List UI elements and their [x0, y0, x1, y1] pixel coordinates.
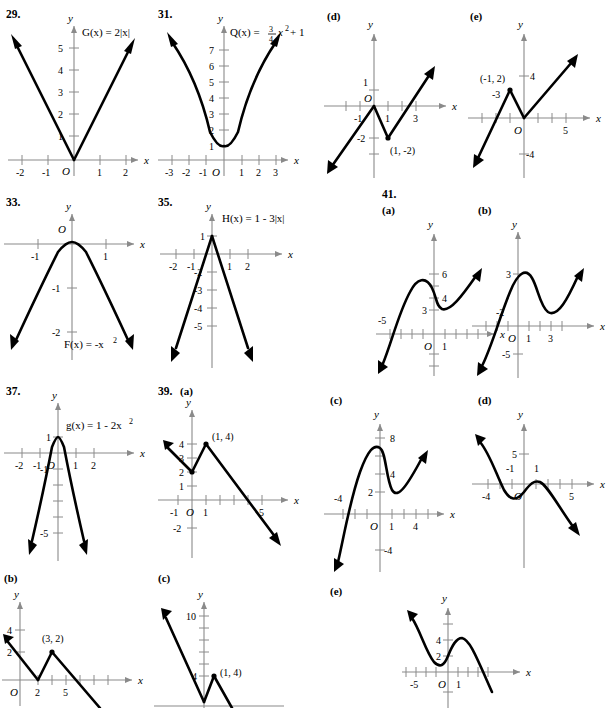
- graph-41c: y x O -4 1 4 2 4 8 -4: [318, 396, 473, 576]
- y-tick-6: 6: [209, 61, 214, 72]
- x-tick--4: -4: [482, 491, 490, 502]
- y-tick--4: -4: [526, 149, 534, 160]
- graph-41e: y x O -5 1 2 4: [400, 580, 580, 708]
- origin-label: O: [58, 223, 66, 235]
- axis-label-x: x: [451, 100, 457, 112]
- point-label-3-2: (3, 2): [42, 633, 64, 645]
- y-tick-6: 6: [442, 269, 447, 280]
- point-label-1-4: (1, 4): [212, 431, 234, 443]
- y-tick--1: -1: [52, 283, 60, 294]
- axis-label-y: y: [427, 218, 433, 230]
- x-tick--3: -3: [492, 89, 500, 100]
- svg-text:2: 2: [285, 24, 289, 33]
- svg-text:Q(x) =: Q(x) =: [230, 26, 260, 39]
- origin-label: O: [212, 166, 220, 178]
- y-tick-4: 4: [7, 625, 12, 636]
- x-tick--2: -2: [16, 167, 24, 178]
- axis-label-y: y: [217, 12, 223, 24]
- x-tick--2: -2: [182, 167, 190, 178]
- graph-41b: y x O -2 1 3 3 -5: [466, 206, 612, 381]
- x-tick-4: 4: [413, 521, 418, 532]
- fraction-denominator: 4: [269, 35, 273, 44]
- point-label-1--2: (1, -2): [390, 145, 415, 157]
- y-tick-4: 4: [209, 93, 214, 104]
- graph-33: y x O -1 1 -1 -2 F(x) = -x 2: [0, 196, 160, 371]
- y-tick-4: 4: [436, 635, 441, 646]
- origin-label: O: [514, 124, 522, 136]
- axis-label-x: x: [137, 674, 143, 686]
- origin-label: O: [424, 340, 432, 352]
- origin-label: O: [62, 165, 70, 177]
- svg-text:+ 1: + 1: [290, 26, 304, 38]
- axis-label-x: x: [293, 154, 299, 166]
- y-tick-3: 3: [209, 109, 214, 120]
- svg-text:g(x) = 1 - 2x: g(x) = 1 - 2x: [66, 419, 122, 432]
- x-tick-5: 5: [563, 125, 568, 136]
- axis-label-y: y: [13, 588, 19, 600]
- axis-label-y: y: [65, 200, 71, 212]
- y-tick--5: -5: [40, 528, 48, 539]
- x-tick-5: 5: [63, 687, 68, 698]
- graph-c: y 10 4 (1, 4): [152, 580, 312, 708]
- point-label--1-2: (-1, 2): [480, 73, 505, 85]
- y-tick-2: 2: [436, 651, 441, 662]
- axis-label-x: x: [599, 320, 605, 332]
- x-tick-2: 2: [256, 167, 261, 178]
- x-tick--2: -2: [15, 460, 23, 471]
- graph-35: y x -2 -1 1 2 1 -2 -3 -4 -5 H(x) = 1 - 3…: [152, 196, 312, 376]
- origin-label: O: [438, 678, 446, 690]
- axis-label-x: x: [287, 248, 293, 260]
- y-tick-8: 8: [390, 433, 395, 444]
- y-tick--5: -5: [502, 349, 510, 360]
- axis-label-y: y: [441, 592, 447, 604]
- function-label-33: F(x) = -x 2: [64, 336, 117, 351]
- x-tick--5: -5: [378, 315, 386, 326]
- origin-label: O: [364, 92, 372, 104]
- graph-d: y x O -1 1 3 1 -2 (1, -2): [318, 8, 468, 183]
- y-tick-2: 2: [368, 487, 373, 498]
- fraction-numerator: 3: [269, 25, 273, 34]
- graph-37: y x O -2 -1 1 2 1 -1 -5 g(x) = 1 - 2x 2: [0, 385, 160, 565]
- function-label-37: g(x) = 1 - 2x 2: [66, 417, 133, 432]
- svg-text:2: 2: [113, 336, 117, 345]
- x-tick-3: 3: [548, 333, 553, 344]
- function-label-29: G(x) = 2|x|: [82, 26, 130, 39]
- axis-label-y: y: [517, 408, 523, 420]
- y-tick-5: 5: [209, 77, 214, 88]
- y-tick-3: 3: [422, 305, 427, 316]
- x-tick--1: -1: [170, 507, 178, 518]
- x-tick-1: 1: [456, 679, 461, 690]
- y-tick-4: 4: [442, 293, 447, 304]
- y-tick-5: 5: [512, 449, 517, 460]
- function-label-35: H(x) = 1 - 3|x|: [222, 212, 285, 225]
- x-tick-2: 2: [91, 460, 96, 471]
- axis-label-y: y: [51, 389, 57, 401]
- origin-label: O: [370, 520, 378, 532]
- x-tick-2: 2: [35, 687, 40, 698]
- x-tick--5: -5: [410, 679, 418, 690]
- axis-label-x: x: [525, 666, 531, 678]
- axis-label-x: x: [599, 478, 605, 490]
- problem-number-41: 41.: [382, 188, 396, 200]
- part-label-41e: (e): [330, 585, 342, 597]
- graph-e: y x O -3 5 4 -4 (-1, 2): [462, 8, 612, 183]
- x-tick-3: 3: [413, 113, 418, 124]
- graph-41d: y x O -4 -1 1 5 5: [466, 396, 612, 576]
- y-tick--5: -5: [194, 321, 202, 332]
- x-tick-1: 1: [97, 167, 102, 178]
- y-tick-2: 2: [58, 109, 63, 120]
- y-tick--2: -2: [357, 133, 365, 144]
- x-tick-1: 1: [534, 463, 539, 474]
- axis-label-x: x: [139, 447, 145, 459]
- x-tick-1: 1: [526, 333, 531, 344]
- origin-label: O: [10, 686, 18, 698]
- y-tick-1: 1: [200, 231, 205, 242]
- svg-text:2: 2: [129, 417, 133, 426]
- y-tick-4: 4: [179, 439, 184, 450]
- y-tick-4: 4: [530, 71, 535, 82]
- x-tick-2: 2: [123, 167, 128, 178]
- axis-label-x: x: [293, 494, 299, 506]
- y-tick-2: 2: [179, 467, 184, 478]
- x-tick-5: 5: [569, 491, 574, 502]
- origin-label: O: [508, 332, 516, 344]
